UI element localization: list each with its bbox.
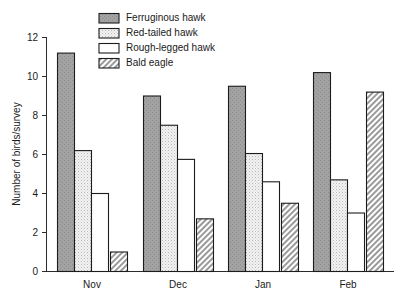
y-tick-label-8: 8 — [32, 110, 38, 121]
bar-jan-rough-legged-hawk — [263, 182, 280, 272]
x-tick-label-nov: Nov — [83, 279, 101, 290]
bar-feb-red-tailed-hawk — [331, 180, 348, 272]
bar-dec-ferruginous-hawk — [144, 96, 161, 272]
bar-nov-rough-legged-hawk — [92, 194, 109, 272]
legend-label-rough-legged-hawk: Rough-legged hawk — [126, 42, 216, 53]
bar-jan-red-tailed-hawk — [246, 154, 263, 272]
legend-swatch-red-tailed-hawk — [99, 29, 119, 39]
bar-dec-red-tailed-hawk — [161, 125, 178, 271]
bar-feb-ferruginous-hawk — [314, 73, 331, 272]
y-tick-label-6: 6 — [32, 149, 38, 160]
y-axis-title: Number of birds/survey — [11, 102, 22, 205]
y-tick-label-12: 12 — [27, 32, 39, 43]
legend-label-bald-eagle: Bald eagle — [126, 57, 174, 68]
y-tick-label-0: 0 — [32, 266, 38, 277]
y-tick-label-4: 4 — [32, 188, 38, 199]
bar-nov-ferruginous-hawk — [58, 53, 75, 271]
chart-canvas: Ferruginous hawk Red-tailed hawk Rough-l… — [0, 0, 409, 303]
bar-feb-bald-eagle — [367, 92, 384, 271]
bar-chart-figure: Ferruginous hawk Red-tailed hawk Rough-l… — [0, 0, 409, 303]
legend-swatch-ferruginous-hawk — [99, 14, 119, 24]
bar-jan-bald-eagle — [282, 203, 299, 271]
x-tick-label-jan: Jan — [255, 279, 271, 290]
legend-item-bald-eagle: Bald eagle — [99, 57, 174, 68]
bar-feb-rough-legged-hawk — [348, 213, 365, 272]
x-tick-label-feb: Feb — [339, 279, 357, 290]
legend-swatch-bald-eagle — [99, 59, 119, 69]
bar-dec-rough-legged-hawk — [178, 159, 195, 271]
legend-swatch-rough-legged-hawk — [99, 44, 119, 54]
bar-dec-bald-eagle — [197, 219, 214, 272]
bar-nov-red-tailed-hawk — [75, 151, 92, 272]
x-tick-label-dec: Dec — [169, 279, 187, 290]
bar-nov-bald-eagle — [111, 252, 128, 272]
bar-jan-ferruginous-hawk — [229, 86, 246, 271]
legend-label-red-tailed-hawk: Red-tailed hawk — [126, 27, 199, 38]
legend-item-ferruginous-hawk: Ferruginous hawk — [99, 12, 206, 23]
legend-item-red-tailed-hawk: Red-tailed hawk — [99, 27, 199, 38]
y-tick-label-10: 10 — [27, 71, 39, 82]
legend-item-rough-legged-hawk: Rough-legged hawk — [99, 42, 216, 53]
legend-label-ferruginous-hawk: Ferruginous hawk — [126, 12, 206, 23]
y-tick-label-2: 2 — [32, 227, 38, 238]
